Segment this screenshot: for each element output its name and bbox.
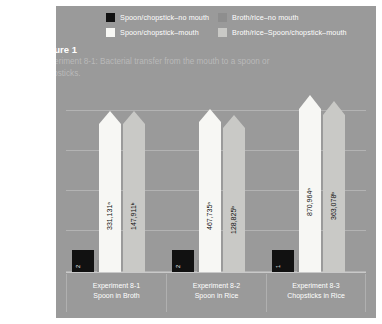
arrow-head-icon [299, 95, 321, 109]
figure-subtitle: Experiment 8-1: Bacterial transfer from … [40, 56, 270, 79]
bar-spoon-chopstick-no-mouth[interactable]: 2 [172, 250, 194, 272]
bar-value-label: 2 [75, 265, 81, 268]
bar-value-label: 870,964ᵃ [306, 188, 313, 216]
legend-column-right: Broth/rice–no mouth Broth/rice–Spoon/cho… [218, 10, 347, 40]
page-margin-top [0, 0, 382, 6]
arrow-head-icon [99, 111, 121, 124]
legend-item-spoon-chopstick-mouth: Spoon/chopstick–mouth [106, 25, 209, 39]
legend-label: Broth/rice–no mouth [232, 13, 299, 22]
bar-value-label: 1 [275, 265, 281, 268]
legend-item-spoon-chopstick-no-mouth: Spoon/chopstick–no mouth [106, 10, 209, 24]
bar-broth-rice-spoon-chopstick-mouth[interactable]: 128,825ᵇ [223, 116, 245, 272]
legend-swatch-icon [218, 28, 227, 37]
page-margin-right [376, 0, 382, 324]
legend-column-left: Spoon/chopstick–no mouth Spoon/chopstick… [106, 10, 209, 40]
bar-value-label: 128,825ᵇ [230, 206, 237, 234]
arrow-head-icon [123, 111, 145, 124]
legend-label: Broth/rice–Spoon/chopstick–mouth [232, 28, 347, 37]
category-experiment-8-3: Experiment 8-3 Chopsticks in Rice [266, 274, 366, 312]
bar-spoon-chopstick-no-mouth[interactable]: 2 [72, 250, 94, 272]
bar-spoon-chopstick-no-mouth[interactable]: 1 [272, 250, 294, 272]
legend-item-broth-rice-spoon-chopstick-mouth: Broth/rice–Spoon/chopstick–mouth [218, 25, 347, 39]
bar-value-label: 147,911ᵇ [130, 203, 137, 230]
arrow-head-icon [199, 109, 221, 122]
category-line-1: Experiment 8-3 [267, 281, 365, 291]
category-experiment-8-2: Experiment 8-2 Spoon in Rice [166, 274, 266, 312]
plot-area: 100,000 1,000 100 10 1 2 1 331,131ᵃ [66, 110, 366, 272]
bar-value-label: 331,131ᵃ [106, 202, 113, 230]
bar-spoon-chopstick-mouth[interactable]: 467,735ᵃ [199, 110, 221, 272]
x-axis-categories: Experiment 8-1 Spoon in Broth Experiment… [66, 274, 366, 312]
category-line-2: Spoon in Broth [67, 291, 166, 301]
bar-group-experiment-8-2: 2 1 467,735ᵃ 128,825ᵇ [166, 110, 266, 272]
legend-swatch-icon [106, 28, 115, 37]
bar-spoon-chopstick-mouth[interactable]: 870,964ᵃ [299, 96, 321, 272]
bar-broth-rice-spoon-chopstick-mouth[interactable]: 363,078ᵇ [323, 102, 345, 272]
category-line-2: Spoon in Rice [167, 291, 266, 301]
x-axis-line [66, 272, 366, 273]
category-line-1: Experiment 8-2 [167, 281, 266, 291]
category-line-2: Chopsticks in Rice [267, 291, 365, 301]
legend-item-broth-rice-no-mouth: Broth/rice–no mouth [218, 10, 347, 24]
arrow-head-icon [223, 115, 245, 128]
bar-value-label: 467,735ᵃ [206, 202, 213, 230]
legend-swatch-icon [106, 13, 115, 22]
bar-group-experiment-8-1: 2 1 331,131ᵃ 147,911ᵇ [66, 110, 166, 272]
legend-label: Spoon/chopstick–no mouth [120, 13, 209, 22]
legend-label: Spoon/chopstick–mouth [120, 28, 199, 37]
chart-legend: Spoon/chopstick–no mouth Spoon/chopstick… [56, 10, 376, 40]
bar-broth-rice-spoon-chopstick-mouth[interactable]: 147,911ᵇ [123, 112, 145, 272]
legend-swatch-icon [218, 13, 227, 22]
arrow-head-icon [323, 101, 345, 115]
bar-group-experiment-8-3: 1 1 870,964ᵃ 363,078ᵇ [266, 110, 366, 272]
bar-value-label: 2 [175, 265, 181, 268]
bar-value-label: 363,078ᵇ [330, 192, 337, 220]
page-margin-bottom [0, 318, 382, 324]
bar-spoon-chopstick-mouth[interactable]: 331,131ᵃ [99, 112, 121, 272]
category-line-1: Experiment 8-1 [67, 281, 166, 291]
figure-container: Spoon/chopstick–no mouth Spoon/chopstick… [0, 0, 382, 324]
page-margin-left [0, 0, 56, 324]
category-experiment-8-1: Experiment 8-1 Spoon in Broth [66, 274, 166, 312]
